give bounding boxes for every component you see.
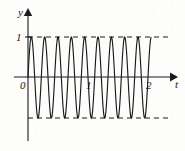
origin-label: 0 <box>20 80 26 91</box>
t-axis-label: t <box>175 79 178 90</box>
y-axis-arrowhead-icon <box>24 8 32 16</box>
plot-canvas <box>0 0 185 151</box>
t-tick-label-1: 1 <box>86 80 92 91</box>
sine-wave-figure: y t 1 0 1 2 <box>0 0 185 151</box>
y-tick-label-1: 1 <box>16 32 22 43</box>
y-axis-label: y <box>18 7 23 18</box>
t-tick-label-2: 2 <box>146 80 152 91</box>
